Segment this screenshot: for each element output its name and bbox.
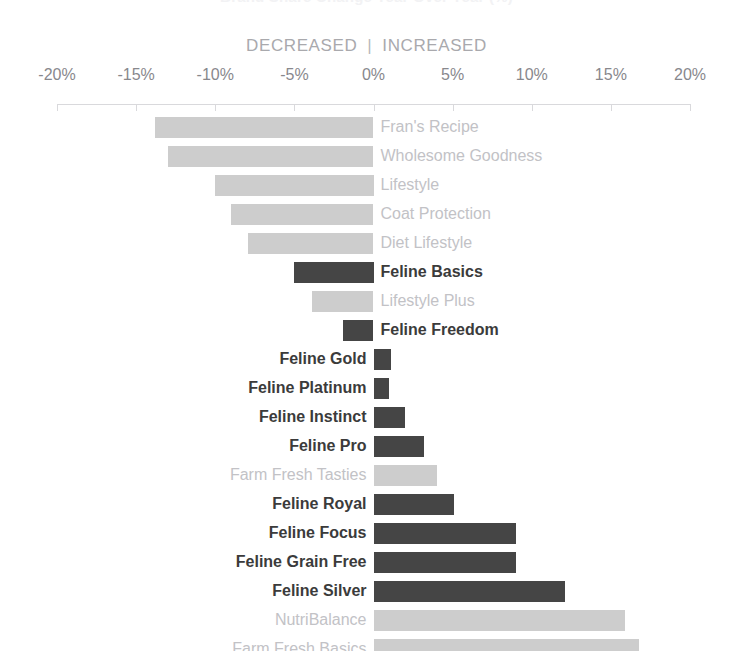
bar-row[interactable]: Feline Focus: [0, 519, 733, 548]
bar-row[interactable]: NutriBalance: [0, 606, 733, 635]
bar[interactable]: [374, 378, 390, 399]
bar-category-label: Feline Gold: [279, 348, 366, 370]
x-axis-tick-label: 0%: [362, 66, 385, 84]
x-axis-tick-label: 15%: [595, 66, 627, 84]
bar[interactable]: [248, 233, 373, 254]
bar-category-label: Farm Fresh Tasties: [230, 464, 367, 486]
bar-category-label: Feline Silver: [272, 580, 366, 602]
x-axis-tick-label: -20%: [38, 66, 75, 84]
bar-category-label: Feline Freedom: [381, 319, 499, 341]
bar-row[interactable]: Feline Gold: [0, 345, 733, 374]
bar[interactable]: [312, 291, 374, 312]
bar-category-label: Fran's Recipe: [381, 116, 479, 138]
bar-row[interactable]: Farm Fresh Tasties: [0, 461, 733, 490]
bar-category-label: Feline Royal: [272, 493, 366, 515]
bar[interactable]: [155, 117, 373, 138]
x-axis-tick-mark: [611, 104, 612, 111]
bar[interactable]: [374, 494, 455, 515]
bar-row[interactable]: Fran's Recipe: [0, 113, 733, 142]
bar-category-label: Wholesome Goodness: [381, 145, 543, 167]
bar[interactable]: [374, 610, 626, 631]
bar-row[interactable]: Coat Protection: [0, 200, 733, 229]
bar[interactable]: [374, 407, 406, 428]
bar-category-label: Farm Fresh Basics: [232, 638, 366, 651]
bars-plot-area: Fran's RecipeWholesome GoodnessLifestyle…: [0, 113, 733, 643]
bar[interactable]: [374, 349, 391, 370]
x-axis-tick-mark: [57, 104, 58, 111]
bar-row[interactable]: Feline Platinum: [0, 374, 733, 403]
bar-category-label: Feline Focus: [269, 522, 367, 544]
bar-category-label: Feline Platinum: [248, 377, 366, 399]
bar[interactable]: [374, 523, 516, 544]
bar-row[interactable]: Diet Lifestyle: [0, 229, 733, 258]
bar[interactable]: [343, 320, 373, 341]
x-axis-tick-labels: -20%-15%-10%-5%0%5%10%15%20%: [0, 66, 733, 88]
bar-row[interactable]: Farm Fresh Basics: [0, 635, 733, 651]
bar-row[interactable]: Feline Basics: [0, 258, 733, 287]
x-axis-tick-mark: [136, 104, 137, 111]
bar[interactable]: [294, 262, 373, 283]
x-axis-tick-label: -5%: [280, 66, 308, 84]
brand-share-change-chart: Brand Share Change Year Over Year (%) DE…: [0, 0, 733, 651]
x-axis-tick-label: -10%: [197, 66, 234, 84]
x-axis-tick-mark: [532, 104, 533, 111]
x-axis-tick-mark: [453, 104, 454, 111]
bar[interactable]: [374, 639, 640, 651]
bar-category-label: Lifestyle Plus: [381, 290, 475, 312]
x-axis-tick-mark: [374, 104, 375, 111]
bar[interactable]: [215, 175, 373, 196]
bar-row[interactable]: Feline Pro: [0, 432, 733, 461]
bar-category-label: NutriBalance: [275, 609, 367, 631]
x-axis-tick-mark: [215, 104, 216, 111]
bar[interactable]: [231, 204, 373, 225]
increased-label: INCREASED: [382, 36, 487, 55]
bar-row[interactable]: Feline Grain Free: [0, 548, 733, 577]
x-axis-tick-label: 5%: [441, 66, 464, 84]
x-axis-tick-label: 10%: [516, 66, 548, 84]
bar[interactable]: [168, 146, 374, 167]
bar-row[interactable]: Lifestyle: [0, 171, 733, 200]
bar-category-label: Feline Pro: [289, 435, 366, 457]
bar[interactable]: [374, 552, 516, 573]
bar-category-label: Lifestyle: [381, 174, 440, 196]
bar-category-label: Feline Grain Free: [236, 551, 367, 573]
x-axis-tick-label: 20%: [674, 66, 706, 84]
header-separator: |: [357, 36, 382, 56]
bar-category-label: Feline Basics: [381, 261, 483, 283]
bar-row[interactable]: Feline Royal: [0, 490, 733, 519]
x-axis-tick-mark: [294, 104, 295, 111]
bar-category-label: Coat Protection: [381, 203, 491, 225]
bar-category-label: Diet Lifestyle: [381, 232, 473, 254]
bar[interactable]: [374, 465, 437, 486]
bar-row[interactable]: Feline Instinct: [0, 403, 733, 432]
bar-row[interactable]: Lifestyle Plus: [0, 287, 733, 316]
x-axis-tick-label: -15%: [117, 66, 154, 84]
x-axis-tick-mark: [690, 104, 691, 111]
direction-header: DECREASED|INCREASED: [0, 36, 733, 56]
page-title: Brand Share Change Year Over Year (%): [0, 0, 733, 5]
bar[interactable]: [374, 436, 425, 457]
bar[interactable]: [374, 581, 565, 602]
bar-row[interactable]: Feline Silver: [0, 577, 733, 606]
bar-row[interactable]: Wholesome Goodness: [0, 142, 733, 171]
bar-category-label: Feline Instinct: [259, 406, 367, 428]
decreased-label: DECREASED: [246, 36, 357, 55]
bar-row[interactable]: Feline Freedom: [0, 316, 733, 345]
